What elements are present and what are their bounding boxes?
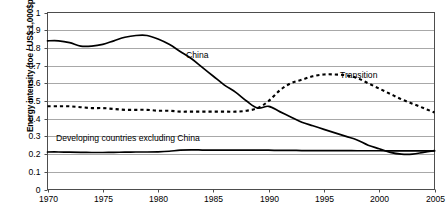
y-tick-label: 0.6 (11, 78, 41, 88)
x-tick-label: 1970 (27, 194, 71, 204)
energy-intensity-line-chart (0, 0, 448, 215)
y-tick-label: 0.1 (11, 167, 41, 177)
y-tick-label: 0.4 (11, 114, 41, 124)
y-tick-label: 0.5 (11, 96, 41, 106)
x-tick-label: 1980 (137, 194, 181, 204)
x-tick-label: 1990 (248, 194, 292, 204)
y-tick-label: 0.2 (11, 149, 41, 159)
y-tick-label: 0.8 (11, 43, 41, 53)
x-tick-label: 2000 (358, 194, 402, 204)
series-label-china: China (186, 50, 208, 60)
y-tick-label: 0.9 (11, 25, 41, 35)
x-tick-label: 1995 (303, 194, 347, 204)
x-tick-label: 1975 (82, 194, 126, 204)
x-tick-label: 1985 (192, 194, 236, 204)
y-tick-label: 0.7 (11, 61, 41, 71)
y-tick-label: 1 (11, 8, 41, 18)
y-tick-label: 0.3 (11, 131, 41, 141)
figure-caption (6, 205, 446, 215)
x-tick-label: 2005 (414, 194, 448, 204)
figure-container: Energy intensity (toe / US$ 1,000$ppp) 0… (0, 0, 448, 215)
series-label-transition: Transition (340, 70, 377, 80)
series-label-developing-countries: Developing countries excluding China (56, 133, 200, 143)
